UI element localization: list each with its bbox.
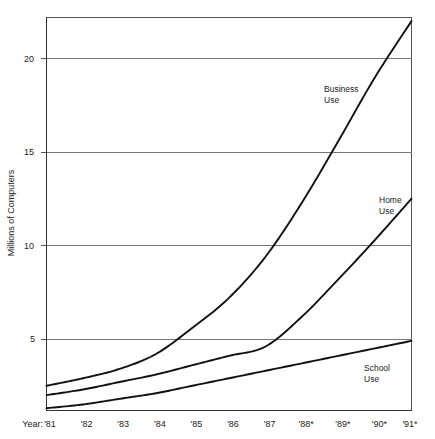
x-tick-label-6: '86 [227, 419, 239, 429]
y-tick-label-20: 20 [24, 54, 34, 64]
x-tick-label-2: '82 [81, 419, 93, 429]
annotation-school-use: School Use [364, 363, 390, 384]
y-tick-label-15: 15 [24, 147, 34, 157]
annotation-business-use: Business Use [324, 84, 359, 105]
line-chart: 20 15 10 5 Millions of Computers Year: '… [0, 0, 435, 439]
y-axis-title: Millions of Computers [6, 169, 16, 256]
annotation-business-use-line2: Use [324, 95, 339, 105]
annotation-school-use-line1: School [364, 363, 390, 373]
annotation-home-use-line1: Home [379, 195, 402, 205]
series-line-business-use [47, 21, 412, 386]
annotation-home-use-line2: Use [379, 206, 394, 216]
x-tick-label-8: '88* [299, 419, 315, 429]
x-tick-label-7: '87 [264, 419, 276, 429]
x-tick-label-11: '91* [402, 419, 418, 429]
annotation-school-use-line2: Use [364, 374, 379, 384]
annotation-business-use-line1: Business [324, 84, 359, 94]
x-axis-prefix-label: Year: [22, 419, 43, 429]
x-tick-label-1: '81 [44, 419, 56, 429]
chart-container: 20 15 10 5 Millions of Computers Year: '… [0, 0, 435, 439]
x-tick-label-9: '89* [335, 419, 351, 429]
y-tick-label-10: 10 [24, 241, 34, 251]
x-tick-label-4: '84 [154, 419, 166, 429]
x-tick-label-3: '83 [117, 419, 129, 429]
y-tick-label-5: 5 [30, 334, 35, 344]
x-tick-label-5: '85 [191, 419, 203, 429]
x-tick-label-10: '90* [372, 419, 388, 429]
